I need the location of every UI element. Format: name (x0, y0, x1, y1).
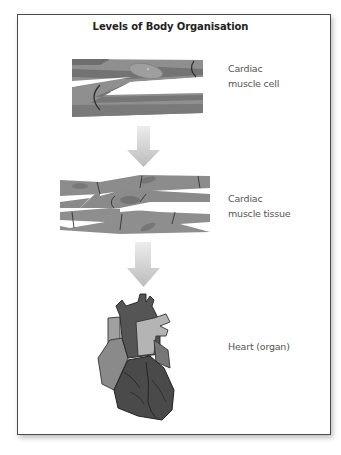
heart-organ-illustration (94, 292, 178, 422)
diagram-title: Levels of Body Organisation (0, 21, 341, 32)
down-arrow-icon (126, 242, 162, 288)
cardiac-muscle-tissue-illustration (60, 172, 212, 238)
cardiac-muscle-cell-illustration (70, 55, 205, 121)
heart-organ-label: Heart (organ) (228, 339, 290, 354)
down-arrow-icon (126, 126, 162, 168)
cardiac-muscle-cell-label: Cardiac muscle cell (228, 61, 279, 91)
cardiac-muscle-tissue-label: Cardiac muscle tissue (228, 191, 290, 221)
